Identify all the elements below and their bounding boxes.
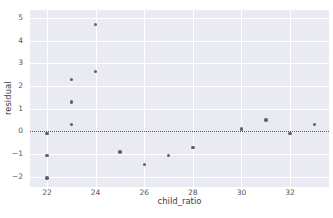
y-axis-label: residual (2, 10, 14, 187)
x-tick-label: 26 (139, 189, 149, 197)
y-tick-label: 2 (18, 82, 23, 90)
data-point (313, 123, 316, 126)
data-point (70, 123, 73, 126)
x-axis-label: child_ratio (30, 197, 329, 206)
data-point (94, 23, 97, 26)
gridline-vertical (193, 10, 194, 187)
data-point (264, 118, 267, 121)
gridline-horizontal (30, 18, 329, 19)
data-point (45, 154, 48, 157)
gridline-vertical (241, 10, 242, 187)
y-axis-label-text: residual (4, 82, 13, 116)
gridline-vertical (96, 10, 97, 187)
data-point (70, 78, 73, 81)
gridline-horizontal (30, 41, 329, 42)
gridline-horizontal (30, 109, 329, 110)
plot-panel (30, 10, 329, 187)
zero-reference-line (30, 131, 329, 132)
data-point (240, 127, 243, 130)
x-tick-label: 32 (285, 189, 295, 197)
data-point (45, 132, 48, 135)
data-point (94, 70, 97, 73)
data-point (45, 176, 48, 179)
gridline-vertical (144, 10, 145, 187)
data-point (118, 150, 121, 153)
scatter-plot-figure: −2−1012345 222426283032 child_ratio resi… (0, 0, 333, 218)
data-point (288, 132, 291, 135)
x-tick-label: 22 (42, 189, 52, 197)
y-tick-label: 1 (18, 105, 23, 113)
data-point (70, 100, 73, 103)
x-tick-label: 24 (91, 189, 101, 197)
x-tick-label: 30 (237, 189, 247, 197)
gridline-horizontal (30, 63, 329, 64)
y-tick-label: 5 (18, 14, 23, 22)
gridline-vertical (47, 10, 48, 187)
y-tick-label: 4 (18, 37, 23, 45)
data-point (191, 146, 194, 149)
data-point (167, 154, 170, 157)
gridline-horizontal (30, 177, 329, 178)
gridline-vertical (290, 10, 291, 187)
y-tick-label: 0 (18, 128, 23, 136)
gridline-horizontal (30, 154, 329, 155)
y-tick-label: 3 (18, 60, 23, 68)
data-point (143, 163, 146, 166)
gridline-horizontal (30, 86, 329, 87)
